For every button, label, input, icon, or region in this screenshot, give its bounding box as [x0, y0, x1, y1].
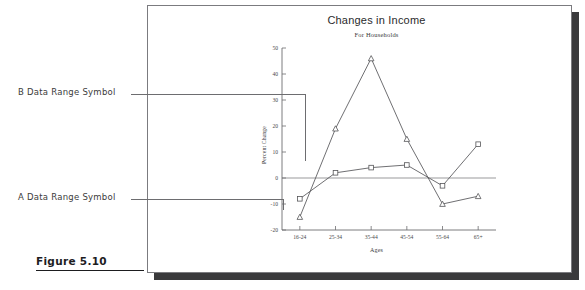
series-line-a: [300, 144, 478, 199]
data-point-marker-a: [369, 165, 374, 170]
data-point-marker-a: [333, 171, 338, 176]
data-point-marker-a: [298, 197, 303, 202]
y-tick-label: -20: [271, 227, 279, 233]
chart-title: Changes in Income: [254, 14, 499, 26]
data-point-marker-a: [440, 184, 445, 189]
x-tick-label: 25-34: [329, 234, 342, 240]
y-tick-label: 40: [272, 71, 278, 77]
x-tick-label: 16-24: [293, 234, 306, 240]
line-chart: Changes in Income For Households Percent…: [254, 14, 499, 264]
y-tick-label: 30: [272, 97, 278, 103]
y-tick-label: 10: [272, 149, 278, 155]
plot-area: -20-100102030405016-2425-3435-4445-5455-…: [254, 42, 499, 247]
figure-caption-rule: [36, 270, 144, 271]
chart-subtitle: For Households: [254, 31, 499, 38]
x-axis-label: Ages: [254, 247, 499, 253]
data-point-marker-b: [333, 126, 339, 131]
data-point-marker-b: [475, 193, 481, 198]
data-point-marker-b: [404, 136, 410, 141]
annotation-label-b: B Data Range Symbol: [18, 87, 116, 97]
x-tick-label: 65+: [474, 234, 483, 240]
y-tick-label: 50: [272, 45, 278, 51]
x-tick-label: 55-64: [436, 234, 449, 240]
y-tick-label: -10: [271, 201, 279, 207]
data-point-marker-b: [368, 56, 374, 61]
annotation-label-a: A Data Range Symbol: [18, 192, 116, 202]
x-tick-label: 45-54: [400, 234, 413, 240]
figure-caption: Figure 5.10: [36, 255, 146, 271]
series-line-b: [300, 58, 478, 217]
figure-caption-text: Figure 5.10: [36, 255, 146, 267]
x-tick-label: 35-44: [365, 234, 378, 240]
data-point-marker-a: [405, 163, 410, 168]
y-tick-label: 20: [272, 123, 278, 129]
data-point-marker-a: [476, 142, 481, 147]
y-tick-label: 0: [275, 175, 278, 181]
data-point-marker-b: [297, 214, 303, 219]
